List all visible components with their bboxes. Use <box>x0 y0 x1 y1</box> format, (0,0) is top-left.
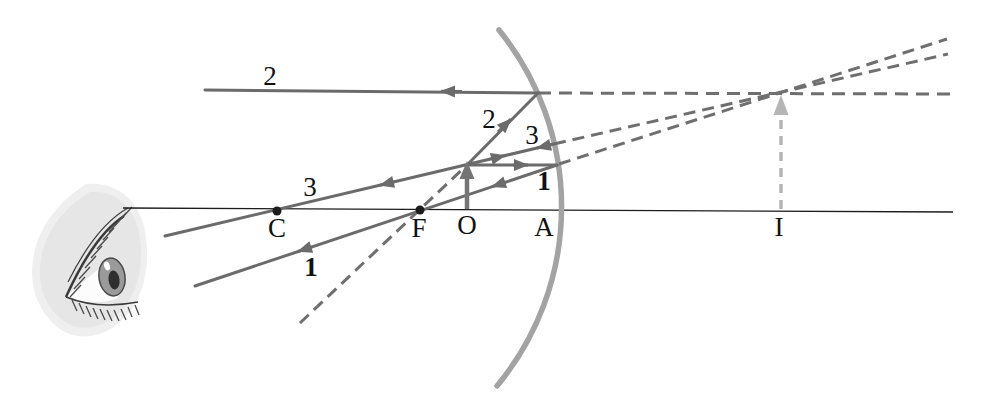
ray2-incident-label: 2 <box>482 104 496 134</box>
ray2-incident-arrowhead <box>498 119 511 132</box>
point-a-label: A <box>534 212 554 242</box>
diagram-canvas: 2 2 3 3 1 1 C F O A I <box>0 0 989 412</box>
point-i-label: I <box>775 212 784 242</box>
point-f-label: F <box>411 213 426 243</box>
ray3-mirror-label: 3 <box>525 120 539 150</box>
object-arrow <box>460 161 475 209</box>
concave-mirror-arc <box>497 30 562 386</box>
image-arrow <box>774 95 789 209</box>
ray1-left-label: 1 <box>304 252 318 282</box>
ray2-top-label: 2 <box>263 61 277 91</box>
point-c-label: C <box>268 213 286 243</box>
ray2-extension-dashed <box>538 93 953 94</box>
ray3-reflected-arrowhead-left <box>380 182 394 185</box>
ray1-reflected-arrowhead-mirror <box>492 182 506 187</box>
ray2-reflected <box>205 90 538 93</box>
ray1-mirror-label: 1 <box>537 166 551 196</box>
ray3-reflected-arrowhead-mirror <box>537 145 551 148</box>
point-o-label: O <box>457 210 477 240</box>
image-arrowhead <box>774 95 789 115</box>
ray3-incident-arrowhead <box>491 156 505 159</box>
observer-eye-icon <box>32 184 147 337</box>
ray1-extension-dashed <box>559 39 947 164</box>
ray3-extension-dashed <box>554 54 948 144</box>
ray3-left-label: 3 <box>303 172 317 202</box>
ray-diagram-figure: 2 2 3 3 1 1 C F O A I <box>0 0 989 412</box>
